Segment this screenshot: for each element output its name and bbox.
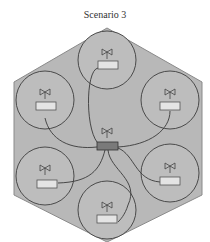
cell-upper-left (16, 71, 74, 129)
cell-upper-right (141, 71, 199, 129)
network-diagram (0, 0, 210, 242)
cell-top (78, 31, 136, 89)
cell-lower-left (16, 147, 74, 205)
